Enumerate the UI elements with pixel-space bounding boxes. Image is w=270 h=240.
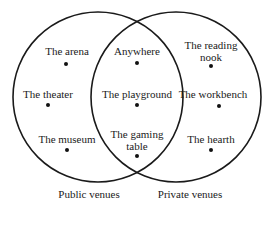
item-label-line1: The gaming bbox=[111, 128, 164, 140]
item-dot bbox=[64, 62, 68, 66]
item-label: The arena bbox=[45, 45, 89, 57]
item-dot bbox=[65, 148, 69, 152]
item-label: The workbench bbox=[179, 88, 248, 100]
item-dot bbox=[209, 148, 213, 152]
item-label: The museum bbox=[38, 133, 95, 145]
item-dot bbox=[135, 154, 139, 158]
item-label-line2: table bbox=[126, 140, 147, 152]
item-label-line2: nook bbox=[200, 51, 222, 63]
item-dot bbox=[217, 104, 221, 108]
item-label: The hearth bbox=[187, 133, 234, 145]
item-dot bbox=[46, 103, 50, 107]
public-venues-label: Public venues bbox=[58, 188, 119, 200]
item-label: Anywhere bbox=[114, 45, 160, 57]
item-dot bbox=[135, 61, 139, 65]
item-label-line1: The reading bbox=[185, 39, 238, 51]
item-label: The theater bbox=[23, 88, 73, 100]
private-venues-label: Private venues bbox=[158, 188, 222, 200]
item-dot bbox=[135, 103, 139, 107]
item-dot bbox=[209, 64, 213, 68]
item-label: The playground bbox=[102, 88, 172, 100]
